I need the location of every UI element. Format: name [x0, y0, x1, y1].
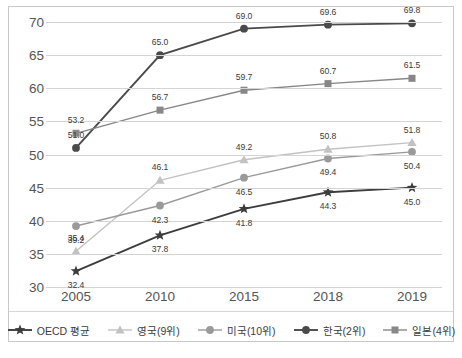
y-tick-label: 35 [10, 246, 44, 261]
legend-marker-icon [293, 323, 319, 337]
data-point-label: 59.7 [236, 72, 252, 82]
series-line [76, 78, 412, 133]
gridline [46, 254, 442, 255]
chart-container: 303540455055606570 32.437.841.844.345.03… [0, 0, 462, 358]
series-line [76, 23, 412, 148]
x-tick-label: 2018 [313, 289, 343, 304]
x-tick-label: 2015 [229, 289, 259, 304]
data-point-label: 69.0 [236, 11, 252, 21]
data-point-marker [72, 222, 80, 230]
legend-label: 미국(10위) [227, 323, 276, 338]
x-tick-label: 2010 [145, 289, 175, 304]
legend-marker-icon [197, 323, 223, 337]
data-point-label: 56.7 [152, 92, 168, 102]
legend-item-4[interactable]: 한국(2위) [293, 323, 366, 338]
legend-label: OECD 평균 [37, 323, 90, 338]
legend-divider [9, 311, 453, 312]
data-point-label: 50.4 [404, 161, 420, 171]
y-tick-label: 50 [10, 147, 44, 162]
legend-label: 영국(9위) [137, 323, 180, 338]
gridline [46, 287, 442, 288]
y-tick-label: 55 [10, 114, 44, 129]
y-tick-label: 70 [10, 15, 44, 30]
gridline [46, 121, 442, 122]
data-point-label: 53.2 [68, 115, 84, 125]
data-point-marker [325, 80, 332, 87]
data-point-marker [408, 19, 416, 27]
data-point-marker [240, 174, 248, 182]
data-point-label: 45.0 [404, 197, 420, 207]
legend-marker-icon [7, 323, 33, 337]
data-point-label: 69.6 [320, 7, 336, 17]
legend-marker-icon [107, 323, 133, 337]
gridline [46, 55, 442, 56]
data-point-label: 37.8 [152, 244, 168, 254]
data-point-label: 46.5 [236, 187, 252, 197]
data-point-marker [409, 75, 416, 82]
legend-label: 한국(2위) [323, 323, 366, 338]
chart-legend: OECD 평균영국(9위)미국(10위)한국(2위)일본(4위) [9, 315, 453, 345]
data-point-marker [156, 202, 164, 210]
data-point-label: 65.0 [152, 37, 168, 47]
data-point-label: 69.8 [404, 5, 420, 15]
legend-item-5[interactable]: 일본(4위) [382, 323, 455, 338]
plot-area: 32.437.841.844.345.035.446.149.250.851.8… [46, 22, 442, 287]
x-tick-label: 2005 [61, 289, 91, 304]
gridline [46, 155, 442, 156]
data-point-marker [324, 155, 332, 163]
data-point-label: 42.3 [152, 215, 168, 225]
data-point-label: 49.2 [236, 142, 252, 152]
data-point-marker [407, 138, 416, 146]
y-tick-label: 30 [10, 280, 44, 295]
data-point-marker [155, 230, 166, 240]
legend-item-1[interactable]: OECD 평균 [7, 323, 90, 338]
data-point-label: 50.8 [320, 131, 336, 141]
data-point-label: 41.8 [236, 218, 252, 228]
data-point-label: 51.8 [404, 125, 420, 135]
gridline [46, 88, 442, 89]
data-point-marker [157, 107, 164, 114]
data-point-label: 44.3 [320, 201, 336, 211]
y-axis: 303540455055606570 [6, 22, 44, 287]
legend-marker-icon [382, 323, 408, 337]
y-tick-label: 65 [10, 48, 44, 63]
gridline [46, 22, 442, 23]
data-point-label: 49.4 [320, 167, 336, 177]
data-point-marker [240, 25, 248, 33]
y-tick-label: 60 [10, 81, 44, 96]
data-point-label: 39.2 [68, 235, 84, 245]
y-tick-label: 40 [10, 213, 44, 228]
series-line [76, 188, 412, 271]
data-point-marker [71, 266, 82, 276]
data-point-label: 61.5 [404, 60, 420, 70]
legend-label: 일본(4위) [412, 323, 455, 338]
data-point-label: 51.0 [68, 130, 84, 140]
legend-item-2[interactable]: 영국(9위) [107, 323, 180, 338]
x-axis: 20052010201520182019 [46, 289, 442, 313]
x-tick-label: 2019 [397, 289, 427, 304]
data-point-marker [239, 203, 250, 213]
y-tick-label: 45 [10, 180, 44, 195]
legend-item-3[interactable]: 미국(10위) [197, 323, 276, 338]
data-point-marker [72, 144, 80, 152]
data-point-label: 46.1 [152, 162, 168, 172]
data-point-label: 60.7 [320, 66, 336, 76]
